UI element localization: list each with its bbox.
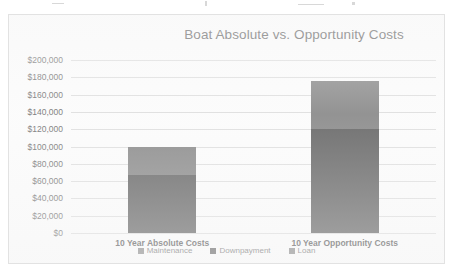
legend-label: Loan <box>298 246 316 255</box>
legend-label: Maintenance <box>147 246 193 255</box>
chart-legend: MaintenanceDownpaymentLoan <box>9 246 444 255</box>
gridline <box>71 164 436 165</box>
gridline <box>71 198 436 199</box>
y-axis-tick-label: $100,000 <box>28 142 63 152</box>
y-axis: $0$20,000$40,000$60,000$80,000$100,000$1… <box>9 60 67 233</box>
bar-column[interactable] <box>311 81 379 233</box>
bar-column[interactable] <box>128 147 196 233</box>
y-axis-tick-label: $80,000 <box>32 159 63 169</box>
legend-label: Downpayment <box>219 246 270 255</box>
gridline <box>71 216 436 217</box>
scan-mark <box>52 3 64 4</box>
y-axis-tick-label: $140,000 <box>28 107 63 117</box>
bar-segment[interactable] <box>311 81 379 129</box>
gridline <box>71 233 436 234</box>
y-axis-tick-label: $160,000 <box>28 90 63 100</box>
bar-segment[interactable] <box>128 175 196 233</box>
gridline <box>71 60 436 61</box>
bar-segment[interactable] <box>311 129 379 233</box>
scan-mark <box>352 2 355 5</box>
scan-mark <box>298 4 324 5</box>
gridline <box>71 129 436 130</box>
legend-swatch-icon <box>210 248 216 254</box>
gridline <box>71 147 436 148</box>
y-axis-tick-label: $120,000 <box>28 124 63 134</box>
scan-artifacts <box>0 0 453 12</box>
bar-segment[interactable] <box>128 147 196 176</box>
gridline <box>71 112 436 113</box>
y-axis-tick-label: $200,000 <box>28 55 63 65</box>
legend-item[interactable]: Loan <box>289 246 316 255</box>
legend-item[interactable]: Maintenance <box>138 246 193 255</box>
chart-container: Boat Absolute vs. Opportunity Costs $0$2… <box>8 14 445 264</box>
plot-area: 10 Year Absolute Costs10 Year Opportunit… <box>71 60 436 233</box>
legend-swatch-icon <box>289 248 295 254</box>
y-axis-tick-label: $0 <box>54 228 63 238</box>
gridline <box>71 77 436 78</box>
gridline <box>71 181 436 182</box>
gridline <box>71 95 436 96</box>
y-axis-tick-label: $60,000 <box>32 176 63 186</box>
chart-title: Boat Absolute vs. Opportunity Costs <box>149 27 439 42</box>
legend-swatch-icon <box>138 248 144 254</box>
scan-mark <box>205 1 207 6</box>
legend-item[interactable]: Downpayment <box>210 246 270 255</box>
y-axis-tick-label: $180,000 <box>28 72 63 82</box>
y-axis-tick-label: $40,000 <box>32 193 63 203</box>
y-axis-tick-label: $20,000 <box>32 211 63 221</box>
